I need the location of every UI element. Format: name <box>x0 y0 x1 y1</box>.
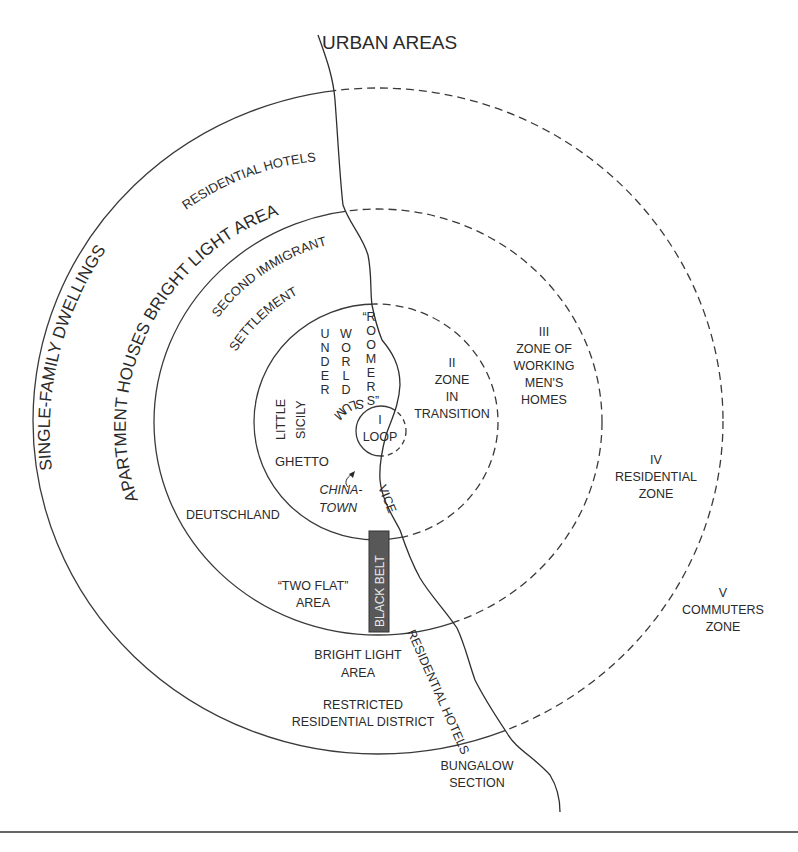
zone-ii-line: IN <box>446 390 459 404</box>
label-two-flat: “TWO FLAT” AREA <box>278 579 349 610</box>
underworld-letter: U <box>320 327 329 341</box>
roomers-letter: O <box>366 324 376 338</box>
label-single-family-dwellings: SINGLE-FAMILY DWELLINGS <box>35 241 110 471</box>
chinatown-line: CHINA- <box>319 483 362 497</box>
label-zone-iii: III ZONE OF WORKING MEN'S HOMES <box>513 325 574 407</box>
label-single-family-text: SINGLE-FAMILY DWELLINGS <box>35 241 110 471</box>
two-flat-line: “TWO FLAT” <box>278 579 349 593</box>
label-residential-hotels-outer: RESIDENTIAL HOTELS <box>179 149 317 212</box>
label-ghetto: GHETTO <box>275 454 329 469</box>
label-restricted: RESTRICTED RESIDENTIAL DISTRICT <box>292 698 435 729</box>
label-sicily: SICILY <box>294 400 308 439</box>
bungalow-line: BUNGALOW <box>441 759 514 773</box>
label-zone-v: V COMMUTERS ZONE <box>682 586 764 634</box>
zone-iii-numeral: III <box>539 325 549 339</box>
label-vice: VICE <box>375 483 399 515</box>
ring-working-boundary <box>254 304 498 540</box>
zone-iii-line: MEN'S <box>525 376 564 390</box>
world-letter: D <box>341 383 350 397</box>
world-letter: W <box>340 327 352 341</box>
zone-ii-line: TRANSITION <box>414 407 490 421</box>
bright-light-line: BRIGHT LIGHT <box>314 648 402 662</box>
zone-v-line: COMMUTERS <box>682 603 764 617</box>
label-deutschland: DEUTSCHLAND <box>186 508 280 522</box>
zone-v-line: ZONE <box>706 620 741 634</box>
roomers-letter: S” <box>367 394 380 408</box>
diagram-title: URBAN AREAS <box>322 32 457 53</box>
restricted-line: RESTRICTED <box>323 698 403 712</box>
roomers-letter: O <box>366 338 376 352</box>
label-world: W O R L D <box>340 327 352 397</box>
label-apartment-houses-text: APARTMENT HOUSES BRIGHT LIGHT AREA <box>111 200 281 504</box>
roomers-letter: “R <box>362 310 375 324</box>
zone-iii-line: WORKING <box>513 359 574 373</box>
label-bungalow: BUNGALOW SECTION <box>441 759 514 790</box>
underworld-letter: N <box>320 341 329 355</box>
world-letter: L <box>343 369 350 383</box>
roomers-letter: M <box>366 352 376 366</box>
underworld-letter: R <box>320 383 329 397</box>
bungalow-line: SECTION <box>449 776 505 790</box>
zone-i-numeral: I <box>378 413 381 427</box>
label-residential-hotels-shore: RESIDENTIAL HOTELS <box>404 628 472 757</box>
roomers-letter: E <box>367 366 375 380</box>
restricted-line: RESIDENTIAL DISTRICT <box>292 715 435 729</box>
zone-iv-numeral: IV <box>650 453 662 467</box>
world-letter: R <box>341 355 350 369</box>
zone-iii-line: HOMES <box>521 393 567 407</box>
two-flat-line: AREA <box>296 596 331 610</box>
label-residential-hotels-outer-text: RESIDENTIAL HOTELS <box>179 149 317 212</box>
zone-iii-line: ZONE OF <box>516 342 572 356</box>
label-zone-ii: II ZONE IN TRANSITION <box>414 356 490 421</box>
zone-i-name: LOOP <box>363 430 398 444</box>
black-belt-label: BLACK BELT <box>373 555 387 627</box>
zone-v-numeral: V <box>719 586 728 600</box>
bright-light-line: AREA <box>341 666 376 680</box>
label-zone-iv: IV RESIDENTIAL ZONE <box>615 453 697 501</box>
chinatown-arrowhead-icon <box>349 471 355 478</box>
label-little: LITTLE <box>274 399 288 440</box>
roomers-letter: R <box>366 380 375 394</box>
underworld-letter: D <box>320 355 329 369</box>
concentric-zone-diagram: URBAN AREAS BLACK BELT SINGLE-FAMILY DWE… <box>0 0 798 852</box>
label-apartment-houses: APARTMENT HOUSES BRIGHT LIGHT AREA <box>111 200 281 504</box>
label-chinatown: CHINA- TOWN <box>319 483 363 515</box>
chinatown-line: TOWN <box>319 501 358 515</box>
zone-iv-line: ZONE <box>639 487 674 501</box>
zone-ii-numeral: II <box>449 356 456 370</box>
zone-ii-line: ZONE <box>435 373 470 387</box>
ring-working-boundary-lake <box>254 304 498 540</box>
label-bright-light: BRIGHT LIGHT AREA <box>314 648 402 680</box>
world-letter: O <box>341 341 351 355</box>
label-underworld: U N D E R <box>320 327 329 397</box>
zone-iv-line: RESIDENTIAL <box>615 470 697 484</box>
underworld-letter: E <box>321 369 329 383</box>
